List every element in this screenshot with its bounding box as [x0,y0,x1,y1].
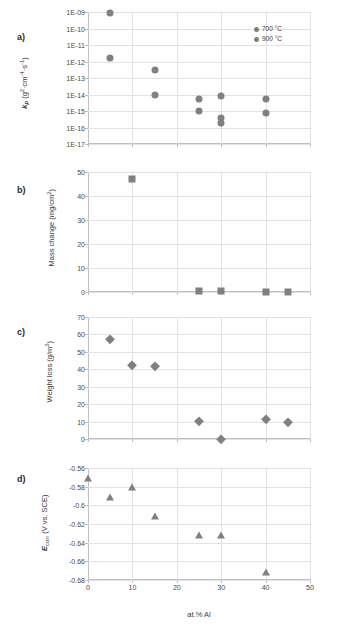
y-tick-mark [85,244,88,245]
gridline-vertical [177,172,178,292]
y-tick-mark [85,352,88,353]
y-tick-label: 1E-13 [66,75,85,82]
x-tick-mark [266,580,267,583]
x-tick-mark [266,144,267,147]
panel-d: d) Ecorr (V vs. SCE) -0.56-0.58-0.6-0.62… [0,450,345,625]
x-tick-mark [221,580,222,583]
y-tick-label: -0.56 [69,465,85,472]
panel-d-y-axis-label: Ecorr (V vs. SCE) [40,472,49,574]
gridline-horizontal [88,543,310,544]
y-tick-label: 60 [77,331,85,338]
gridline-horizontal [88,404,310,405]
panel-a-y-subscript: p [23,101,29,105]
y-tick-mark [85,487,88,488]
gridline-horizontal [88,317,310,318]
y-tick-mark [85,387,88,388]
y-tick-mark [85,268,88,269]
panel-d-y-symbol: E [40,546,49,551]
x-tick-mark [132,144,133,147]
gridline-horizontal [88,580,310,581]
data-point-square [196,288,203,295]
y-tick-mark [85,468,88,469]
y-tick-label: 20 [77,401,85,408]
y-tick-label: 1E-17 [66,141,85,148]
y-tick-label: 50 [77,169,85,176]
gridline-vertical [310,172,311,292]
panel-c-letter: c) [17,327,25,337]
gridline-horizontal [88,244,310,245]
x-tick-mark [88,292,89,295]
y-tick-mark [85,422,88,423]
x-tick-mark [177,439,178,442]
data-point-circle [151,91,158,98]
y-tick-label: 0 [81,289,85,296]
gridline-vertical [132,12,133,144]
panel-c-plot-area: 706050403020100 [88,317,310,439]
figure-x-axis-label: at.% Al [187,610,210,619]
y-tick-mark [85,29,88,30]
y-tick-mark [85,95,88,96]
y-tick-mark [85,317,88,318]
y-tick-label: 20 [77,241,85,248]
legend-item-1: 900 °C [254,34,282,44]
panel-b-letter: b) [17,185,26,195]
data-point-triangle [151,513,159,520]
panel-a-y-axis-label: kp (g2·cm-4·s-1) [19,44,29,122]
y-tick-label: 1E-16 [66,124,85,131]
gridline-horizontal [88,505,310,506]
y-tick-label: -0.64 [69,539,85,546]
gridline-horizontal [88,220,310,221]
data-point-circle [151,66,158,73]
data-point-square [262,288,269,295]
panel-a: a) kp (g2·cm-4·s-1) 1E-091E-101E-111E-12… [0,0,345,165]
data-point-triangle [106,493,114,500]
data-point-circle [262,96,269,103]
panel-a-y-u2: ·cm [20,76,29,89]
panel-a-y-u3: -4 [19,71,25,76]
gridline-horizontal [88,128,310,129]
panel-d-y-rest: (V vs. SCE) [40,495,49,536]
data-point-triangle [84,474,92,481]
gridline-horizontal [88,45,310,46]
panel-a-y-u5: -1 [19,60,25,65]
x-tick-mark [88,144,89,147]
panel-d-letter: d) [17,474,26,484]
panel-b: b) Mass change (mg/cm2) 50403020100 [0,165,345,305]
y-tick-label: -0.66 [69,558,85,565]
gridline-horizontal [88,172,310,173]
y-tick-label: 0 [81,436,85,443]
panel-a-y-unit-close: ) [20,57,29,60]
gridline-vertical [310,12,311,144]
gridline-horizontal [88,369,310,370]
panel-b-y-main: Mass change (mg/cm [47,195,56,267]
gridline-horizontal [88,268,310,269]
y-tick-mark [85,111,88,112]
y-tick-label: -0.68 [69,577,85,584]
y-tick-mark [85,78,88,79]
y-tick-mark [85,62,88,63]
legend-label: 700 °C [262,24,282,34]
data-point-circle [107,9,114,16]
x-tick-mark [132,292,133,295]
y-tick-mark [85,45,88,46]
y-tick-label: 1E-11 [67,42,85,49]
x-tick-mark [310,292,311,295]
panel-c-y-close: ) [45,341,54,344]
legend-marker-icon [254,37,259,42]
data-point-square [218,288,225,295]
data-point-triangle [195,531,203,538]
panel-c-y-main: Weight loss (g/m [45,347,54,403]
legend-item-0: 700 °C [254,24,282,34]
x-tick-label: 40 [262,584,270,591]
gridline-horizontal [88,352,310,353]
x-tick-mark [132,580,133,583]
panel-a-y-u1: 2 [19,89,25,92]
x-tick-mark [266,439,267,442]
gridline-horizontal [88,334,310,335]
panel-a-y-symbol: k [20,105,29,109]
gridline-horizontal [88,78,310,79]
y-tick-label: 1E-14 [66,91,85,98]
gridline-horizontal [88,144,310,145]
data-point-circle [218,120,225,127]
y-tick-label: -0.6 [73,502,85,509]
